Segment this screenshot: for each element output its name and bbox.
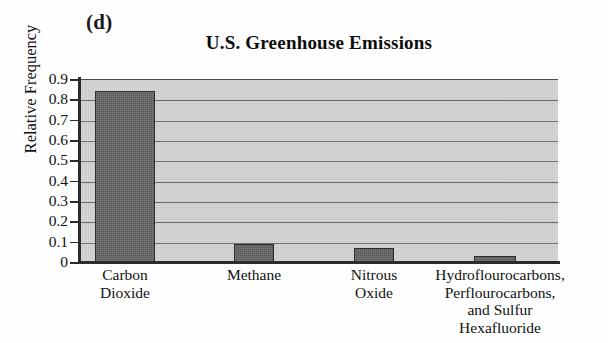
- x-axis-category-label: Methane: [194, 266, 314, 284]
- y-axis-tick-label: 0.5: [24, 151, 68, 169]
- y-axis-tick-mark: [70, 79, 79, 81]
- x-axis-category-label-line: and Sulfur: [420, 301, 580, 319]
- x-axis-category-label-line: Oxide: [319, 284, 429, 302]
- y-axis-tick-mark: [70, 262, 79, 264]
- x-axis-line: [78, 261, 560, 264]
- y-axis-tick-label: 0.8: [24, 90, 68, 108]
- bar: [234, 244, 274, 262]
- x-axis-category-label-line: Dioxide: [65, 284, 185, 302]
- x-axis-category-label: Hydroflourocarbons,Perflourocarbons,and …: [420, 266, 580, 336]
- y-axis-tick-mark: [70, 160, 79, 162]
- x-axis-category-label-line: Perflourocarbons,: [420, 284, 580, 302]
- y-axis-tick-label: 0: [24, 253, 68, 271]
- x-axis-category-label: NitrousOxide: [319, 266, 429, 301]
- chart-title: U.S. Greenhouse Emissions: [0, 32, 608, 54]
- figure-panel: (d) U.S. Greenhouse Emissions Relative F…: [0, 0, 608, 343]
- y-axis-tick-mark: [70, 99, 79, 101]
- y-axis-tick-mark: [70, 221, 79, 223]
- bar: [354, 248, 394, 262]
- x-axis-category-label-line: Hexafluoride: [420, 319, 580, 337]
- y-axis-tick-mark: [70, 140, 79, 142]
- y-axis-tick-label: 0.9: [24, 70, 68, 88]
- plot-area: [80, 79, 558, 262]
- x-axis-category-label-line: Nitrous: [319, 266, 429, 284]
- y-axis-tick-label: 0.2: [24, 212, 68, 230]
- y-axis-tick-mark: [70, 201, 79, 203]
- y-axis-tick-label: 0.7: [24, 111, 68, 129]
- y-axis-line: [78, 77, 81, 264]
- y-axis-tick-mark: [70, 181, 79, 183]
- y-axis-tick-label: 0.6: [24, 131, 68, 149]
- y-axis-tick-label: 0.3: [24, 192, 68, 210]
- y-axis-tick-mark: [70, 120, 79, 122]
- y-axis-tick-label: 0.1: [24, 233, 68, 251]
- y-axis-tick-mark: [70, 242, 79, 244]
- bar: [95, 91, 155, 262]
- y-axis-tick-label: 0.4: [24, 172, 68, 190]
- x-axis-category-label-line: Hydroflourocarbons,: [420, 266, 580, 284]
- x-axis-category-label-line: Carbon: [65, 266, 185, 284]
- x-axis-category-label-line: Methane: [194, 266, 314, 284]
- x-axis-category-label: CarbonDioxide: [65, 266, 185, 301]
